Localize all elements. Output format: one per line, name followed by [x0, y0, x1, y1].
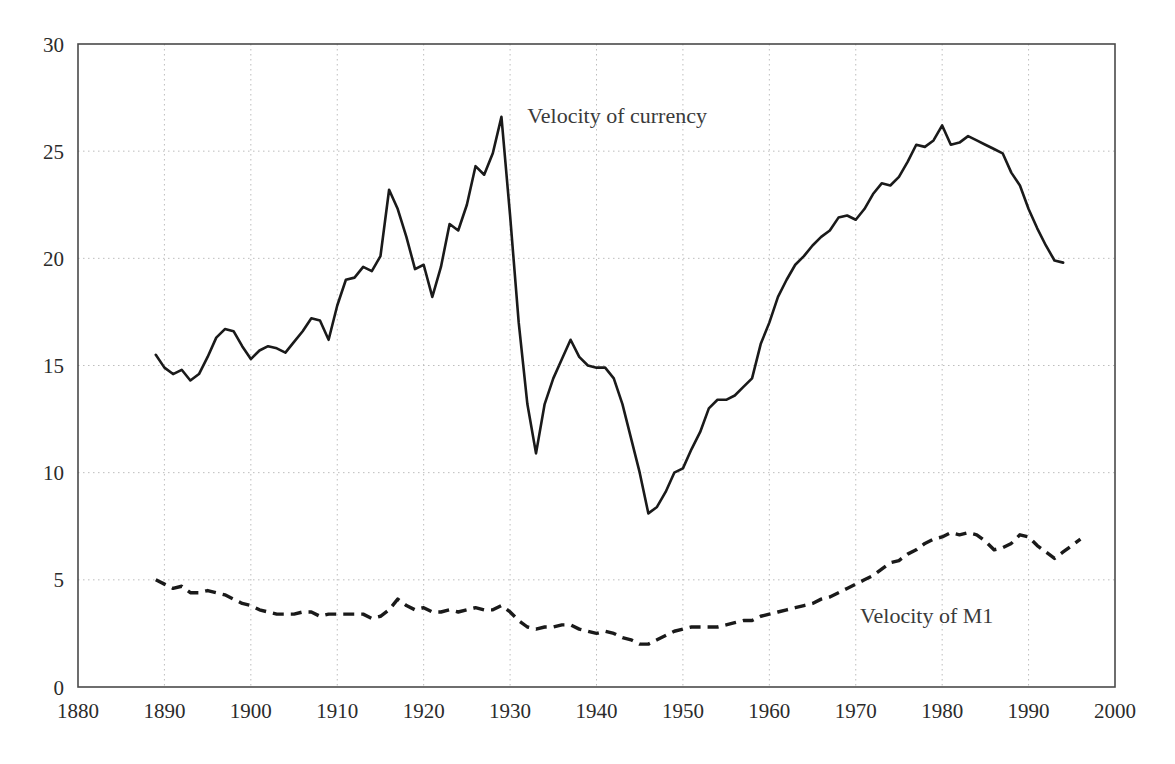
x-tick-label: 1970 [835, 699, 877, 723]
y-tick-label: 25 [43, 140, 64, 164]
series-annotation-velocity-of-m1: Velocity of M1 [860, 603, 993, 628]
y-tick-label: 15 [43, 354, 64, 378]
grid-layer [78, 44, 1115, 687]
x-tick-label: 1890 [143, 699, 185, 723]
x-axis-tick-labels: 1880189019001910192019301940195019601970… [57, 699, 1136, 723]
x-tick-label: 1910 [316, 699, 358, 723]
x-tick-label: 1950 [662, 699, 704, 723]
y-tick-label: 10 [43, 461, 64, 485]
velocity-line-chart: 1880189019001910192019301940195019601970… [0, 0, 1175, 764]
y-axis-tick-labels: 302520151050 [43, 33, 64, 700]
series-line-velocity-of-currency [156, 117, 1063, 514]
chart-container: 1880189019001910192019301940195019601970… [0, 0, 1175, 764]
series-annotation-velocity-of-currency: Velocity of currency [527, 103, 707, 128]
y-tick-label: 5 [54, 568, 65, 592]
y-tick-label: 0 [54, 676, 65, 700]
x-tick-label: 1930 [489, 699, 531, 723]
x-tick-label: 2000 [1094, 699, 1136, 723]
x-tick-label: 1900 [230, 699, 272, 723]
x-tick-label: 1920 [403, 699, 445, 723]
y-tick-label: 20 [43, 247, 64, 271]
x-tick-label: 1990 [1008, 699, 1050, 723]
x-tick-label: 1960 [748, 699, 790, 723]
y-tick-label: 30 [43, 33, 64, 57]
x-tick-label: 1980 [921, 699, 963, 723]
x-tick-label: 1940 [576, 699, 618, 723]
x-tick-label: 1880 [57, 699, 99, 723]
